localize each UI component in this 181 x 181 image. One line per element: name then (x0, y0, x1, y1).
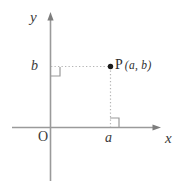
origin-label: O (38, 130, 48, 144)
y-axis-arrowhead (47, 12, 53, 21)
x-axis-arrowhead (153, 124, 162, 130)
coordinate-plane-diagram: y x O b a P(a, b) (0, 0, 181, 181)
y-axis-right-angle-icon (51, 67, 60, 76)
diagram-canvas (0, 0, 181, 181)
point-p-dot (108, 64, 113, 69)
y-tick-label-b: b (31, 59, 38, 73)
point-p-coordinates-label: (a, b) (125, 59, 152, 71)
x-axis-right-angle-icon (110, 118, 119, 127)
y-axis-group (47, 12, 53, 181)
right-angle-markers-group (51, 67, 119, 127)
x-tick-label-a: a (105, 131, 112, 145)
x-axis-label: x (165, 131, 172, 146)
x-axis-group (12, 124, 161, 130)
y-axis-label: y (30, 10, 37, 25)
point-p-name-label: P (115, 57, 123, 72)
point-p-label-group: P(a, b) (115, 56, 152, 72)
